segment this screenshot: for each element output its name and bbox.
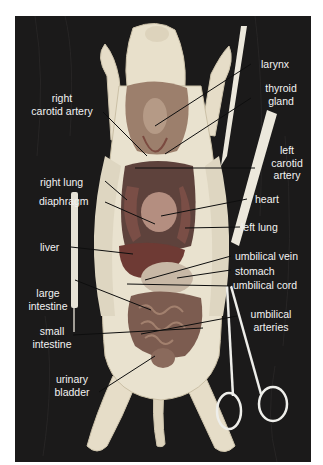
label-large-intestine: large intestine [21,287,75,312]
label-urinary-bladder-line2: bladder [45,386,99,399]
label-diaphragm: diaphragm [39,195,89,208]
label-umbilical-arteries-line1: umbilical [243,308,299,321]
label-umbilical-arteries-line2: arteries [243,321,299,334]
label-small-intestine: small intestine [25,325,79,350]
label-left-carotid-line2: carotid [265,157,309,170]
label-urinary-bladder: urinary bladder [45,373,99,398]
label-heart: heart [255,193,279,206]
label-small-intestine-line2: intestine [25,338,79,351]
label-large-intestine-line2: intestine [21,300,75,313]
label-thyroid-line1: thyroid [259,82,303,95]
label-right-carotid-line2: carotid artery [21,105,103,118]
label-left-carotid-line3: artery [265,169,309,182]
label-umbilical-vein: umbilical vein [235,250,298,263]
label-large-intestine-line1: large [21,287,75,300]
label-umbilical-cord: umbilical cord [233,279,297,292]
label-small-intestine-line1: small [25,325,79,338]
bladder-shape [151,348,175,368]
label-larynx: larynx [261,58,289,71]
label-liver: liver [40,241,59,254]
label-right-carotid-artery: right carotid artery [21,92,103,117]
label-urinary-bladder-line1: urinary [45,373,99,386]
label-thyroid-line2: gland [259,95,303,108]
label-left-carotid-artery: left carotid artery [265,144,309,182]
label-left-lung: left lung [241,221,278,234]
specimen-photo-frame: larynx thyroid gland right carotid arter… [15,16,311,462]
stomach-shape [141,262,193,294]
label-right-carotid-line1: right [21,92,103,105]
label-right-lung: right lung [40,176,83,189]
label-left-carotid-line1: left [265,144,309,157]
heart-shape [141,192,177,232]
label-thyroid-gland: thyroid gland [259,82,303,107]
forceps [221,26,247,166]
label-stomach: stomach [235,265,275,278]
label-umbilical-arteries: umbilical arteries [243,308,299,333]
